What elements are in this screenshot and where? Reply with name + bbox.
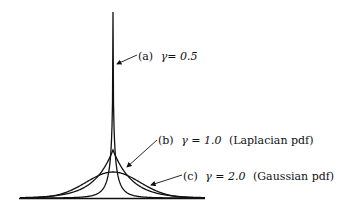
label-a-gamma: γ= 0.5	[161, 50, 198, 63]
label-a-id: (a)	[138, 50, 153, 63]
curve-a-gamma-0-5	[20, 12, 205, 198]
label-b-gamma: γ = 1.0	[181, 134, 221, 147]
curve-c-gaussian	[20, 172, 205, 198]
label-c-gamma: γ = 2.0	[205, 170, 245, 183]
label-b: (b) γ = 1.0 (Laplacian pdf)	[158, 134, 313, 147]
label-c-note: (Gaussian pdf)	[253, 170, 334, 183]
label-c: (c) γ = 2.0 (Gaussian pdf)	[183, 170, 334, 183]
leader-arrow-b	[127, 140, 157, 167]
label-b-id: (b)	[158, 134, 174, 147]
generalized-gaussian-figure: (a) γ= 0.5 (b) γ = 1.0 (Laplacian pdf) (…	[0, 0, 344, 210]
leader-arrow-a	[117, 55, 137, 64]
leader-arrow-c	[151, 175, 182, 185]
label-b-note: (Laplacian pdf)	[229, 134, 314, 147]
curve-b-laplacian	[20, 150, 205, 198]
label-c-id: (c)	[183, 170, 198, 183]
label-a: (a) γ= 0.5	[138, 50, 197, 63]
